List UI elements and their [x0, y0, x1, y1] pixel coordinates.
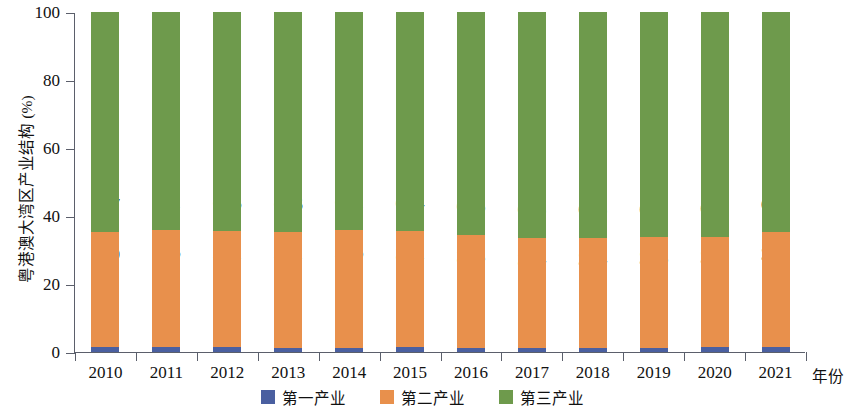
bar-stack — [640, 12, 668, 352]
bar-group[interactable]: 32.466.52018 — [579, 13, 607, 352]
bar-segment[interactable] — [701, 237, 729, 348]
bar-segment[interactable] — [396, 347, 424, 352]
bar-segment[interactable] — [274, 348, 302, 352]
bar-segment[interactable] — [335, 230, 363, 348]
bar-segment[interactable] — [396, 12, 424, 231]
bar-group[interactable]: 32.566.12020 — [701, 13, 729, 352]
bar-segment[interactable] — [762, 232, 790, 347]
bar-segment[interactable] — [213, 347, 241, 352]
bar-segment[interactable] — [762, 347, 790, 352]
x-axis-tick — [684, 352, 685, 361]
bar-segment[interactable] — [213, 12, 241, 231]
y-axis-tick-label: 40 — [43, 207, 60, 227]
y-axis-tick-label: 100 — [35, 3, 61, 23]
bar-group[interactable]: 34.564.12011 — [152, 13, 180, 352]
bar-group[interactable]: 34.164.52012 — [213, 13, 241, 352]
x-axis-tick-label: 2013 — [271, 363, 305, 383]
bar-segment[interactable] — [457, 348, 485, 352]
x-axis-tick-label: 2019 — [637, 363, 671, 383]
x-axis-tick — [75, 352, 76, 361]
legend-item[interactable]: 第一产业 — [261, 386, 346, 408]
bar-group[interactable]: 33.864.82021 — [762, 13, 790, 352]
bar-segment[interactable] — [274, 12, 302, 232]
bar-group[interactable]: 33.964.72010 — [91, 13, 119, 352]
y-axis-tick: 0 — [66, 353, 75, 354]
bar-segment[interactable] — [518, 12, 546, 238]
bar-group[interactable]: 34.264.42015 — [396, 13, 424, 352]
bar-group[interactable]: 34.664.12014 — [335, 13, 363, 352]
bar-segment[interactable] — [396, 231, 424, 347]
bar-segment[interactable] — [762, 12, 790, 232]
bar-stack — [335, 12, 363, 352]
bar-stack — [152, 12, 180, 352]
bar-segment[interactable] — [91, 232, 119, 347]
legend-label: 第一产业 — [282, 386, 346, 408]
bar-segment[interactable] — [579, 12, 607, 238]
bar-stack — [213, 12, 241, 352]
bar-group[interactable]: 32.466.52017 — [518, 13, 546, 352]
x-axis-tick-label: 2018 — [576, 363, 610, 383]
legend-label: 第二产业 — [401, 386, 465, 408]
bar-segment[interactable] — [518, 348, 546, 352]
plot-area: 02040608010033.964.7201034.564.1201134.1… — [74, 13, 805, 353]
bar-segment[interactable] — [213, 231, 241, 347]
bar-stack — [701, 12, 729, 352]
x-axis-tick — [562, 352, 563, 361]
x-axis-tick-label: 2015 — [393, 363, 427, 383]
y-axis-title: 粤港澳大湾区产业结构 (%) — [14, 9, 36, 369]
x-axis-tick-label: 2016 — [454, 363, 488, 383]
y-axis-tick: 60 — [66, 149, 75, 150]
bar-segment[interactable] — [640, 237, 668, 348]
bar-segment[interactable] — [335, 348, 363, 352]
bar-segment[interactable] — [91, 12, 119, 232]
y-axis-tick: 100 — [66, 13, 75, 14]
legend-item[interactable]: 第二产业 — [380, 386, 465, 408]
bar-group[interactable]: 32.666.22019 — [640, 13, 668, 352]
bar-segment[interactable] — [579, 348, 607, 352]
x-axis-tick — [745, 352, 746, 361]
x-axis-tick-label: 2017 — [515, 363, 549, 383]
bar-segment[interactable] — [518, 238, 546, 348]
y-axis-tick-label: 60 — [43, 139, 60, 159]
x-axis-tick — [806, 352, 807, 361]
bar-stack — [579, 12, 607, 352]
x-axis-tick — [380, 352, 381, 361]
y-axis-tick: 80 — [66, 81, 75, 82]
bar-group[interactable]: 33.365.52016 — [457, 13, 485, 352]
legend-item[interactable]: 第三产业 — [499, 386, 584, 408]
bar-segment[interactable] — [701, 347, 729, 352]
stacked-bar-chart: 粤港澳大湾区产业结构 (%) 02040608010033.964.720103… — [0, 0, 845, 412]
x-axis-tick-label: 2014 — [332, 363, 366, 383]
bar-stack — [518, 12, 546, 352]
bar-segment[interactable] — [152, 230, 180, 347]
y-axis-tick-label: 20 — [43, 275, 60, 295]
bar-segment[interactable] — [457, 12, 485, 235]
x-axis-tick — [441, 352, 442, 361]
bar-segment[interactable] — [579, 238, 607, 348]
x-axis-tick — [197, 352, 198, 361]
bar-segment[interactable] — [701, 12, 729, 237]
bar-group[interactable]: 34.164.62013 — [274, 13, 302, 352]
chart-legend: 第一产业第二产业第三产业 — [0, 386, 845, 408]
bar-segment[interactable] — [640, 12, 668, 237]
bar-segment[interactable] — [335, 12, 363, 230]
bar-segment[interactable] — [152, 347, 180, 352]
legend-swatch-icon — [499, 390, 513, 404]
bar-stack — [457, 12, 485, 352]
bar-segment[interactable] — [640, 348, 668, 352]
x-axis-tick-label: 2011 — [150, 363, 183, 383]
x-axis-tick — [501, 352, 502, 361]
y-axis-tick-label: 80 — [43, 71, 60, 91]
bar-segment[interactable] — [91, 347, 119, 352]
x-axis-tick-label: 2021 — [759, 363, 793, 383]
bar-segment[interactable] — [274, 232, 302, 348]
x-axis-tick — [623, 352, 624, 361]
bar-segment[interactable] — [152, 12, 180, 230]
x-axis-tick-label: 2010 — [88, 363, 122, 383]
bar-segment[interactable] — [457, 235, 485, 348]
x-axis-tick — [319, 352, 320, 361]
bar-stack — [762, 12, 790, 352]
x-axis-tick-label: 2020 — [698, 363, 732, 383]
bar-stack — [274, 12, 302, 352]
x-axis-tick-label: 2012 — [210, 363, 244, 383]
